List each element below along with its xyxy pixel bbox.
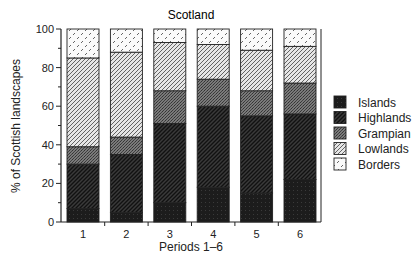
segment-grampian <box>154 91 186 124</box>
x-tick-label: 4 <box>210 228 216 240</box>
y-tick-label: 40 <box>42 139 54 151</box>
y-tick-label: 0 <box>48 216 54 228</box>
segment-borders <box>241 29 273 50</box>
x-tick-label: 2 <box>123 228 129 240</box>
x-axis: 123456 <box>61 222 321 240</box>
bar-period-5 <box>241 29 273 222</box>
segment-borders <box>67 29 99 58</box>
segment-grampian <box>67 147 99 164</box>
segment-highlands <box>241 116 273 193</box>
segment-highlands <box>110 154 142 212</box>
x-tick-label: 6 <box>297 228 303 240</box>
legend-label: Highlands <box>358 111 411 125</box>
x-tick-label: 5 <box>254 228 260 240</box>
segment-grampian <box>110 137 142 154</box>
y-tick-label: 80 <box>42 62 54 74</box>
legend-item-borders: Borders <box>334 158 400 172</box>
segment-highlands <box>197 106 229 187</box>
bar-period-2 <box>110 29 142 222</box>
bar-period-6 <box>284 29 316 222</box>
legend-swatch <box>334 127 346 139</box>
segment-borders <box>197 29 229 44</box>
segment-lowlands <box>197 44 229 79</box>
bar-period-4 <box>197 29 229 222</box>
legend-label: Islands <box>358 96 396 110</box>
segment-islands <box>67 208 99 222</box>
segment-grampian <box>284 83 316 114</box>
legend: IslandsHighlandsGrampianLowlandsBorders <box>334 96 411 172</box>
segment-borders <box>110 29 142 52</box>
segment-grampian <box>241 91 273 116</box>
segment-borders <box>284 29 316 46</box>
chart-title: Scotland <box>168 8 215 22</box>
y-tick-label: 100 <box>36 23 54 35</box>
legend-item-grampian: Grampian <box>334 127 411 141</box>
segment-highlands <box>284 114 316 180</box>
legend-label: Borders <box>358 158 400 172</box>
x-tick-label: 1 <box>80 228 86 240</box>
legend-item-lowlands: Lowlands <box>334 142 409 156</box>
segment-islands <box>197 187 229 222</box>
legend-item-highlands: Highlands <box>334 111 411 125</box>
segment-lowlands <box>154 43 186 91</box>
segment-grampian <box>197 79 229 106</box>
legend-swatch <box>334 96 346 108</box>
x-tick-label: 3 <box>167 228 173 240</box>
bar-period-1 <box>67 29 99 222</box>
y-tick-label: 20 <box>42 177 54 189</box>
y-axis-label: % of Scottish landscapes <box>9 59 23 193</box>
segment-highlands <box>67 164 99 208</box>
legend-item-islands: Islands <box>334 96 396 110</box>
segment-lowlands <box>284 46 316 83</box>
segment-lowlands <box>241 50 273 91</box>
segment-islands <box>154 203 186 222</box>
segment-islands <box>241 193 273 222</box>
x-axis-label: Periods 1–6 <box>159 240 223 254</box>
legend-label: Grampian <box>358 127 411 141</box>
segment-lowlands <box>110 52 142 137</box>
segment-lowlands <box>67 58 99 147</box>
plot-area <box>67 29 316 222</box>
segment-islands <box>284 180 316 222</box>
stacked-bar-chart: Scotland 020406080100 123456 % of Scotti… <box>0 0 417 267</box>
legend-swatch <box>334 112 346 124</box>
segment-highlands <box>154 124 186 203</box>
bar-period-3 <box>154 29 186 222</box>
legend-label: Lowlands <box>358 142 409 156</box>
legend-swatch <box>334 158 346 170</box>
segment-borders <box>154 29 186 43</box>
y-tick-label: 60 <box>42 100 54 112</box>
legend-swatch <box>334 143 346 155</box>
segment-islands <box>110 212 142 222</box>
